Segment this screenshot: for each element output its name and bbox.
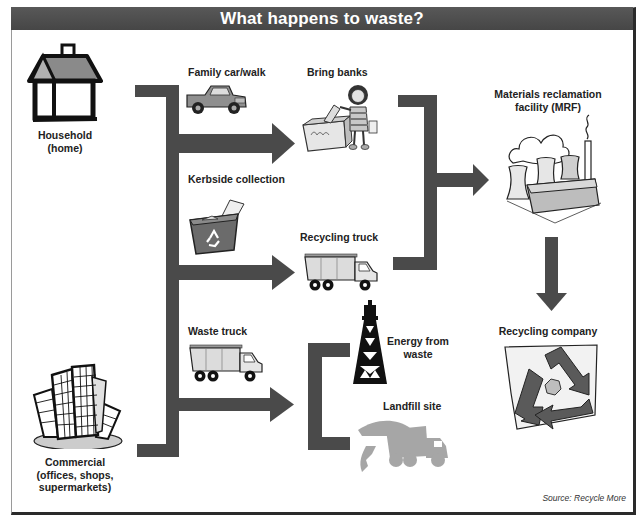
- waste-truck-icon: [188, 343, 264, 383]
- landfill-site-label: Landfill site: [383, 400, 441, 413]
- bring-banks-label: Bring banks: [307, 66, 368, 79]
- arrow-to-recycling-truck-icon: [178, 255, 295, 290]
- disposal-bracket: [308, 343, 350, 450]
- house-icon: [27, 43, 103, 123]
- office-buildings-icon: [32, 363, 124, 449]
- household-label-line: Household: [15, 129, 115, 142]
- waste-truck-label: Waste truck: [188, 325, 247, 338]
- energy-label-line: waste: [378, 348, 458, 361]
- recycling-truck-label: Recycling truck: [300, 231, 378, 244]
- household-label-line: (home): [15, 142, 115, 155]
- factory-icon: [505, 113, 603, 225]
- commercial-label-line: (offices, shops,: [15, 469, 135, 482]
- household-label: Household (home): [15, 129, 115, 154]
- recycling-company-label: Recycling company: [478, 325, 618, 338]
- arrow-to-bring-banks-icon: [178, 123, 295, 164]
- left-bracket: [135, 85, 179, 457]
- recycling-bin-icon: [188, 198, 246, 256]
- recycle-symbol-icon: [503, 343, 599, 433]
- energy-label-line: Energy from: [378, 335, 458, 348]
- kerbside-collection-label: Kerbside collection: [188, 173, 285, 186]
- family-car-walk-label: Family car/walk: [188, 66, 266, 79]
- commercial-label-line: Commercial: [15, 456, 135, 469]
- arrow-to-disposal-icon: [178, 387, 294, 422]
- arrow-down-to-recycling-company-icon: [536, 237, 567, 311]
- landfill-truck-icon: [356, 416, 452, 474]
- mrf-bracket: [393, 95, 437, 270]
- recycling-truck-icon: [303, 252, 379, 292]
- bottle-bank-icon: [300, 83, 382, 153]
- pickup-truck-icon: [185, 83, 248, 115]
- mrf-label-line: facility (MRF): [478, 101, 618, 114]
- arrow-to-mrf-icon: [436, 164, 489, 196]
- commercial-label-line: supermarkets): [15, 481, 135, 494]
- source-note: Source: Recycle More: [480, 493, 626, 503]
- commercial-label: Commercial (offices, shops, supermarkets…: [15, 456, 135, 494]
- mrf-label: Materials reclamation facility (MRF): [478, 88, 618, 113]
- energy-from-waste-label: Energy from waste: [378, 335, 458, 360]
- mrf-label-line: Materials reclamation: [478, 88, 618, 101]
